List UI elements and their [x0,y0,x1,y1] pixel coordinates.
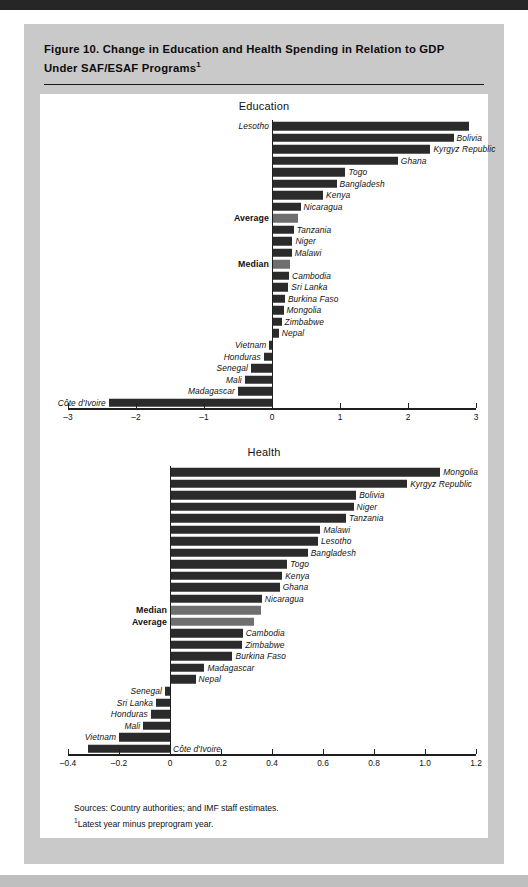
bar-row: Mali [40,374,488,386]
bar-label-health-honduras: Honduras [111,709,148,719]
bar-row: Togo [40,559,488,571]
bar-row: Average [40,616,488,628]
bar-row: Bolivia [40,132,488,144]
bar-row: Mongolia [40,305,488,317]
health-axis-line [68,754,476,755]
bar-health-bangladesh [170,548,308,557]
health-tick-label: 0.2 [215,758,227,768]
bar-row: Burkina Faso [40,651,488,663]
bar-education-average [272,214,298,223]
health-bars: MongoliaKyrgyz RepublicBoliviaNigerTanza… [40,466,488,754]
education-tick [340,403,341,408]
footnote-text: Latest year minus preprogram year. [78,819,214,829]
bar-education-mongolia [272,306,284,315]
bar-row: Kyrgyz Republic [40,478,488,490]
bar-education-malawi [272,249,292,258]
bar-education-mali [245,375,272,384]
bar-education-togo [272,168,345,177]
bar-row: Côte d'Ivoire [40,743,488,755]
bar-row: Mongolia [40,466,488,478]
bar-health-tanzania [170,514,346,523]
bar-education-nicaragua [272,202,301,211]
health-tick [170,749,171,754]
bar-row: Niger [40,501,488,513]
bar-label-education-honduras: Honduras [224,352,261,362]
health-tick-label: –0.4 [60,758,76,768]
health-chart: Health MongoliaKyrgyz RepublicBoliviaNig… [40,446,488,786]
bar-row: Median [40,259,488,271]
bar-health-bolivia [170,491,356,500]
title-divider [44,84,484,86]
bar-row: Lesotho [40,535,488,547]
bar-label-health-average: Average [132,617,167,627]
bar-label-health-senegal: Senegal [130,686,161,696]
education-tick [204,403,205,408]
bar-health-c-te-d-ivoire [88,744,170,753]
bar-label-education-vietnam: Vietnam [235,340,266,350]
bar-education-kenya [272,191,323,200]
bar-row: Vietnam [40,731,488,743]
bar-label-education-togo: Togo [348,167,367,177]
bar-label-education-c-te-d-ivoire: Côte d'Ivoire [58,398,106,408]
bar-health-kyrgyz-republic [170,479,407,488]
bar-label-education-burkina-faso: Burkina Faso [288,294,339,304]
bar-label-education-kenya: Kenya [326,190,350,200]
education-tick-label: –2 [131,412,140,422]
bar-row: Madagascar [40,385,488,397]
health-tick [272,749,273,754]
bar-row: Cambodia [40,628,488,640]
health-tick [119,749,120,754]
bar-label-health-togo: Togo [290,559,309,569]
bar-label-health-mongolia: Mongolia [443,467,478,477]
health-tick [425,749,426,754]
bar-education-lesotho [272,122,469,131]
bar-label-health-tanzania: Tanzania [349,513,383,523]
health-tick [374,749,375,754]
bar-row: Bangladesh [40,547,488,559]
sources-note: Sources: Country authorities; and IMF st… [74,802,522,830]
bar-label-education-sri-lanka: Sri Lanka [291,282,327,292]
bar-label-health-sri-lanka: Sri Lanka [117,698,153,708]
education-x-axis: –3–2–10123 [40,408,488,434]
bar-row: Niger [40,236,488,248]
health-zero-line [170,466,171,754]
bar-row: Togo [40,166,488,178]
bar-label-education-ghana: Ghana [401,156,427,166]
bar-label-education-mongolia: Mongolia [287,305,322,315]
bar-health-honduras [151,710,170,719]
bar-label-health-bolivia: Bolivia [359,490,384,500]
bar-label-health-ghana: Ghana [283,582,309,592]
page-bottom-edge [0,875,528,887]
bar-row: Honduras [40,708,488,720]
education-axis-line [68,408,476,409]
bar-row: Madagascar [40,662,488,674]
education-tick [476,403,477,408]
bar-health-vietnam [119,733,170,742]
health-tick-label: 0.4 [266,758,278,768]
bar-row: Nepal [40,328,488,340]
bar-education-madagascar [238,387,272,396]
health-tick-label: –0.2 [111,758,127,768]
bar-health-malawi [170,525,320,534]
bar-education-bolivia [272,133,454,142]
education-chart: Education LesothoBoliviaKyrgyz RepublicG… [40,100,488,440]
bar-education-median [272,260,290,269]
bar-label-health-cambodia: Cambodia [246,628,285,638]
education-tick-label: 0 [270,412,275,422]
bar-label-health-lesotho: Lesotho [321,536,352,546]
bar-label-health-median: Median [136,605,167,615]
bar-health-median [170,606,261,615]
bar-health-lesotho [170,537,318,546]
health-tick-label: 0.6 [317,758,329,768]
bar-row: Burkina Faso [40,293,488,305]
bar-row: Nicaragua [40,593,488,605]
bar-education-zimbabwe [272,318,282,327]
bar-education-kyrgyz-republic [272,145,430,154]
bar-health-zimbabwe [170,641,242,650]
education-tick [68,403,69,408]
bar-label-education-madagascar: Madagascar [188,386,235,396]
education-tick-label: 2 [406,412,411,422]
education-tick [408,403,409,408]
bar-label-education-senegal: Senegal [216,363,247,373]
bar-health-ghana [170,583,280,592]
